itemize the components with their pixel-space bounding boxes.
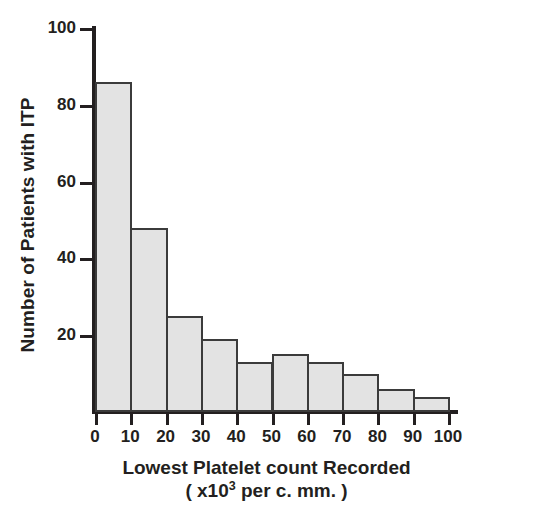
x-axis-tick [130,413,133,425]
x-axis-tick-label: 50 [262,427,281,447]
x-axis-tick-label: 0 [90,427,99,447]
histogram-bar [272,354,309,412]
x-axis-tick [201,413,204,425]
x-axis-units-suffix: per c. mm. ) [236,481,348,502]
x-axis-title: Lowest Platelet count Recorded ( x103 pe… [0,456,533,503]
x-axis-title-units: ( x103 per c. mm. ) [0,479,533,503]
x-axis-tick [95,413,98,425]
histogram-bar [307,362,344,412]
y-axis-tick-label: 40 [57,248,76,268]
x-axis-tick [272,413,275,425]
x-axis-tick-label: 80 [368,427,387,447]
x-axis-tick [377,413,380,425]
x-axis-tick [413,413,416,425]
y-axis-tick-label: 60 [57,172,76,192]
x-axis-tick [448,413,451,425]
histogram-bar [236,362,273,412]
x-axis-tick-label: 100 [434,427,462,447]
x-axis-tick-label: 30 [191,427,210,447]
histogram-bar [377,389,414,412]
x-axis-tick-label: 40 [227,427,246,447]
histogram-bar [201,339,238,412]
y-axis-tick [80,335,93,338]
histogram-bar [95,82,132,412]
x-axis-tick-label: 90 [403,427,422,447]
y-axis-tick [80,28,93,31]
y-axis-tick-label: 20 [57,325,76,345]
histogram-bar [166,316,203,412]
x-axis-tick-label: 10 [121,427,140,447]
plot-area [95,28,448,412]
y-axis-tick [80,105,93,108]
x-axis-tick [166,413,169,425]
histogram-bar [342,374,379,412]
x-axis-units-exponent: 3 [229,479,236,493]
y-axis-tick [80,182,93,185]
x-axis-title-line1: Lowest Platelet count Recorded [122,457,410,478]
y-axis-tick [80,258,93,261]
x-axis-tick-label: 60 [297,427,316,447]
x-axis-tick-label: 20 [156,427,175,447]
y-axis-tick-label: 80 [57,95,76,115]
y-axis-tick-labels: 10080604020 [22,0,76,525]
x-axis-tick-label: 70 [333,427,352,447]
histogram-bar [413,397,450,412]
x-axis-tick [236,413,239,425]
histogram-figure: Number of Patients with ITP 10080604020 … [0,0,533,525]
x-axis-tick [307,413,310,425]
histogram-bar [130,228,167,412]
y-axis-tick-label: 100 [48,18,76,38]
x-axis-units-prefix: ( x10 [185,481,228,502]
x-axis-tick [342,413,345,425]
